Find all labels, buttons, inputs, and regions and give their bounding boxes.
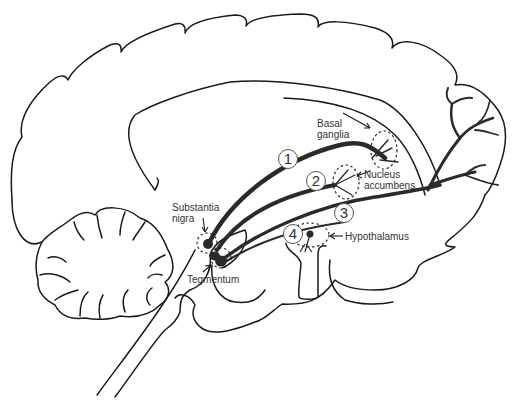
pathway-number-3: 3	[334, 203, 354, 223]
cortex-terminals	[428, 88, 498, 190]
label-substantia-nigra-2: nigra	[172, 213, 194, 224]
label-nucleus-accumbens-1: Nucleus	[364, 169, 400, 180]
pathway-3-mesocortical	[222, 185, 440, 260]
dopamine-pathways	[209, 143, 440, 262]
pituitary-stalk-outline	[286, 243, 326, 299]
nucleus-accumbens-terminals	[335, 170, 355, 195]
pathway-number-1: 1	[278, 149, 298, 169]
label-basal-ganglia-1: Basal	[317, 118, 342, 129]
pathway-number-2: 2	[306, 171, 326, 191]
label-tegmentum: Tegmentum	[187, 274, 239, 285]
label-hypothalamus: Hypothalamus	[345, 231, 409, 242]
pathway-2-mesolimbic	[217, 185, 335, 250]
label-nucleus-accumbens-2: accumbens	[364, 180, 415, 191]
cortex-outline	[11, 14, 505, 200]
brain-sagittal-illustration	[0, 0, 517, 400]
pathway-number-4: 4	[283, 224, 303, 244]
label-substantia-nigra-1: Substantia	[172, 202, 219, 213]
brain-diagram: 1 2 3 4 Basal ganglia Nucleus accumbens …	[0, 0, 517, 400]
brainstem-outline	[97, 250, 195, 395]
label-basal-ganglia-2: ganglia	[317, 129, 349, 140]
